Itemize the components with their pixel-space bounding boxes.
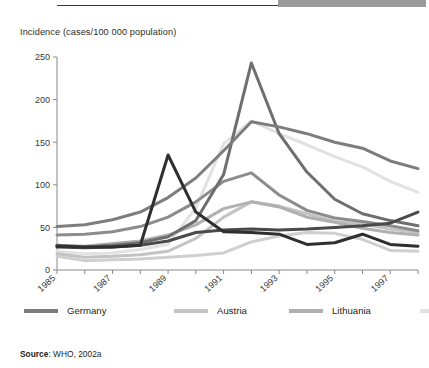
- legend-swatch-icon: [24, 309, 58, 313]
- legend-label: Lithuania: [332, 305, 371, 316]
- y-tick-label: 250: [35, 52, 50, 62]
- chart-legend: GermanyAustriaLithuaniaEstoniaLatviaCypr…: [24, 303, 420, 318]
- y-tick-label: 200: [35, 95, 50, 105]
- legend-swatch-icon: [420, 309, 429, 313]
- legend-item: Lithuania: [289, 303, 420, 318]
- series-lines: [57, 63, 418, 261]
- x-tick-label: 1989: [147, 273, 169, 294]
- x-tick-label: 1985: [36, 273, 58, 294]
- legend-item: Austria: [174, 303, 289, 318]
- legend-item: Estonia: [420, 303, 429, 318]
- legend-swatch-icon: [174, 309, 208, 313]
- line-chart-svg: 050100150200250 198519871989199119931995…: [0, 0, 429, 300]
- source-label: Source: [20, 349, 48, 359]
- y-axis: 050100150200250: [35, 52, 57, 275]
- y-tick-label: 150: [35, 138, 50, 148]
- legend-item: Germany: [24, 303, 174, 318]
- x-axis: 1985198719891991199319951997: [36, 270, 418, 294]
- x-tick-label: 1993: [258, 273, 280, 294]
- legend-swatch-icon: [289, 309, 323, 313]
- y-tick-label: 100: [35, 180, 50, 190]
- legend-label: Germany: [67, 305, 106, 316]
- x-tick-label: 1987: [91, 273, 113, 294]
- y-tick-label: 50: [40, 223, 50, 233]
- source-text: : WHO, 2002a: [48, 349, 101, 359]
- source-note: Source: WHO, 2002a: [20, 349, 101, 359]
- x-tick-label: 1991: [202, 273, 224, 294]
- x-tick-label: 1997: [369, 273, 391, 294]
- legend-label: Austria: [217, 305, 247, 316]
- x-tick-label: 1995: [313, 273, 335, 294]
- chart-plot-area: 050100150200250 198519871989199119931995…: [0, 0, 429, 300]
